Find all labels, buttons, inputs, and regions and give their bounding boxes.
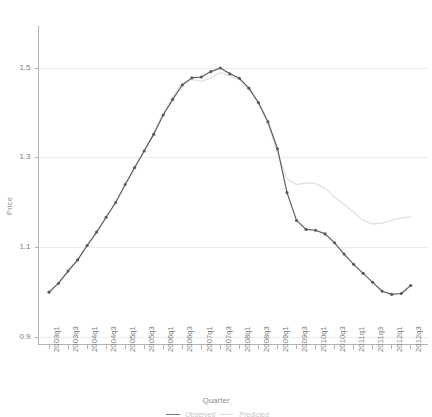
x-tick-label: 2011q1 [357, 326, 366, 351]
legend-label-observed: Observed [185, 411, 215, 417]
y-gridlines [39, 68, 429, 337]
y-tick-label: 1.1 [1, 242, 31, 251]
y-axis-label: Price [5, 197, 14, 215]
x-tick-label: 2012q3 [414, 326, 423, 352]
x-tick-label: 2007q3 [224, 326, 233, 352]
chart-legend-clipped: Observed Predicted [0, 411, 432, 417]
x-tick-label: 2010q3 [338, 326, 347, 352]
chart-legend: Observed Predicted [0, 411, 432, 417]
y-axis-ticks [35, 68, 39, 337]
x-tick-label: 2004q1 [90, 326, 99, 352]
y-tick-label: 1.3 [1, 152, 31, 161]
x-tick-label: 2007q1 [205, 326, 214, 352]
x-tick-label: 2003q3 [71, 326, 80, 352]
series-predicted-line [49, 72, 411, 293]
chart-plot-area [0, 0, 432, 417]
x-tick-label: 2005q3 [147, 326, 156, 352]
series-observed-line [49, 68, 411, 294]
y-tick-label: 1.5 [1, 63, 31, 72]
legend-swatch-observed [166, 414, 180, 415]
x-tick-label: 2010q1 [319, 326, 328, 352]
x-tick-label: 2006q3 [185, 326, 194, 352]
x-tick-label: 2009q1 [281, 326, 290, 352]
x-tick-label: 2009q3 [300, 326, 309, 352]
x-tick-label: 2005q1 [128, 326, 137, 352]
y-axis-label-container: Price [2, 176, 16, 236]
legend-label-predicted: Predicted [239, 411, 269, 417]
x-tick-label: 2008q3 [262, 326, 271, 352]
x-tick-label: 2004q3 [109, 326, 118, 352]
x-tick-label: 2003q1 [52, 326, 61, 352]
x-tick-label: 2012q1 [395, 326, 404, 352]
y-tick-label: 0.9 [1, 332, 31, 341]
x-tick-label: 2006q1 [166, 326, 175, 352]
price-quarter-line-chart: Price 0.91.11.31.5 2003q12003q32004q1200… [0, 0, 432, 417]
legend-swatch-predicted [220, 414, 234, 415]
x-axis-label: Quarter [0, 396, 432, 405]
series-observed-markers [47, 66, 412, 296]
x-tick-label: 2011q3 [376, 326, 385, 351]
x-tick-label: 2008q1 [243, 326, 252, 352]
